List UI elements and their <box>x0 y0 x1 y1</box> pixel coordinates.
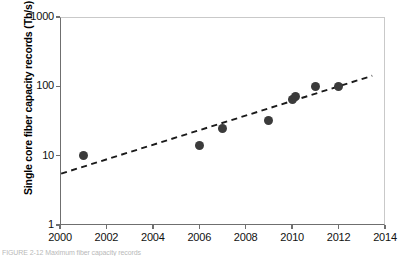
y-axis-title: Single core fiber capacity records (Tb/s… <box>22 0 34 203</box>
x-tick-label-2012: 2012 <box>316 231 362 243</box>
y-tick-mark-10 <box>56 155 60 156</box>
x-tick-mark-2010 <box>291 225 292 229</box>
x-tick-mark-2002 <box>106 225 107 229</box>
data-point <box>291 92 300 101</box>
x-tick-mark-2008 <box>245 225 246 229</box>
x-tick-label-2006: 2006 <box>176 231 222 243</box>
x-tick-label-2010: 2010 <box>269 231 315 243</box>
data-point <box>218 124 227 133</box>
y-tick-label-10: 10 <box>8 149 54 161</box>
y-tick-label-1000: 1000 <box>8 10 54 22</box>
x-tick-label-2004: 2004 <box>130 231 176 243</box>
x-tick-mark-2000 <box>59 225 60 229</box>
x-tick-mark-2006 <box>199 225 200 229</box>
y-tick-label-1: 1 <box>8 218 54 230</box>
x-tick-label-2014: 2014 <box>362 231 407 243</box>
figure-caption: FIGURE 2-12 Maximum fiber capacity recor… <box>2 249 402 256</box>
x-tick-label-2002: 2002 <box>83 231 129 243</box>
x-tick-label-2000: 2000 <box>37 231 83 243</box>
x-tick-mark-2014 <box>384 225 385 229</box>
data-point <box>79 151 88 160</box>
y-tick-label-100: 100 <box>8 79 54 91</box>
figure-container: Single core fiber capacity records (Tb/s… <box>0 0 407 258</box>
plot-area <box>60 17 385 225</box>
x-tick-mark-2012 <box>338 225 339 229</box>
y-tick-mark-100 <box>56 86 60 87</box>
data-point <box>195 141 204 150</box>
data-point <box>311 82 320 91</box>
x-tick-label-2008: 2008 <box>223 231 269 243</box>
y-tick-mark-1000 <box>56 16 60 17</box>
x-tick-mark-2004 <box>152 225 153 229</box>
